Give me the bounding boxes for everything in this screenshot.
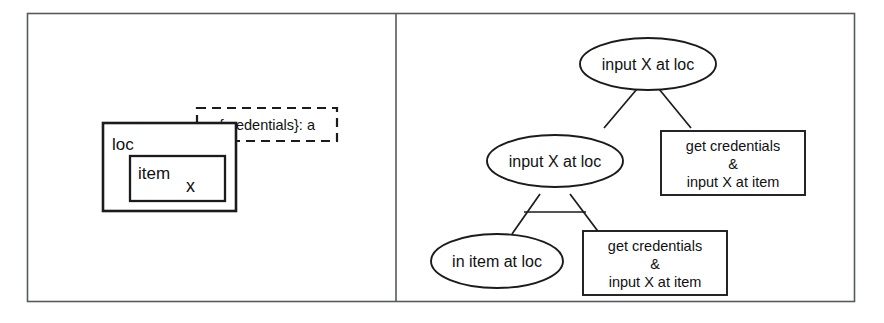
edge-root-to-leaf <box>659 89 691 128</box>
tree-leaf-level1-line-2: & <box>728 156 738 172</box>
tree-leaf-level1-line-3: input X at item <box>687 174 780 190</box>
tree-node-root-label: input X at loc <box>602 56 695 73</box>
edge-root-to-goal <box>604 89 637 128</box>
tree-leaf-level2-line-3: input X at item <box>609 274 702 290</box>
system-model-panel: {credentials}: a loc item x <box>103 108 337 211</box>
tree-leaf-level1-line-1: get credentials <box>686 138 780 154</box>
figure-canvas: {credentials}: a loc item x input X at l… <box>0 0 884 323</box>
tree-node-goal-level2-label: in item at loc <box>452 253 542 270</box>
item-box-label: item <box>138 164 170 183</box>
attack-tree-panel: input X at loc input X at loc get creden… <box>431 38 805 295</box>
tree-leaf-level2-line-2: & <box>650 256 660 272</box>
edge-goal-to-subgoal <box>512 194 540 234</box>
edge-goal-to-leaf <box>570 194 600 234</box>
loc-box-label: loc <box>112 135 134 154</box>
figure-root: {credentials}: a loc item x input X at l… <box>0 0 884 323</box>
tree-node-goal-level1-label: input X at loc <box>509 153 602 170</box>
item-box-marker: x <box>186 176 195 196</box>
tree-leaf-level2-line-1: get credentials <box>608 238 702 254</box>
